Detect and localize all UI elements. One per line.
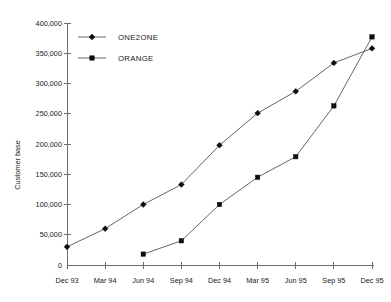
data-point-diamond-marker [140,202,146,208]
x-tick-label: Jun 94 [132,276,154,285]
data-point-diamond-marker [89,34,95,40]
y-tick-label: 0 [58,261,62,270]
legend-item-one2one[interactable]: ONE2ONE [78,33,158,42]
x-tick-label: Sep 95 [322,276,345,285]
x-tick-label: Dec 93 [55,276,78,285]
y-axis-title: Customer base [13,140,22,189]
y-axis-tick-labels: 050,000100,000150,000200,000250,000300,0… [36,19,62,270]
x-tick-label: Jun 95 [285,276,307,285]
data-point-diamond-marker [369,46,375,52]
data-point-square-marker [294,155,298,159]
y-tick-label: 250,000 [36,109,62,118]
x-tick-label: Sep 94 [170,276,193,285]
x-tick-label: Mar 95 [246,276,269,285]
x-tick-label: Dec 95 [360,276,383,285]
data-point-square-marker [141,252,145,256]
series-line [143,37,372,254]
y-tick-label: 400,000 [36,19,62,28]
series-one2one [64,46,375,250]
data-point-diamond-marker [64,244,70,250]
line-chart: 050,000100,000150,000200,000250,000300,0… [0,0,391,302]
y-tick-label: 200,000 [36,140,62,149]
data-point-square-marker [217,202,221,206]
data-point-diamond-marker [102,226,108,232]
x-tick-label: Dec 94 [208,276,231,285]
legend-label: ORANGE [118,54,154,63]
legend-item-orange[interactable]: ORANGE [78,54,154,63]
data-point-square-marker [332,104,336,108]
y-tick-label: 100,000 [36,200,62,209]
y-tick-label: 300,000 [36,79,62,88]
data-point-square-marker [179,239,183,243]
y-tick-label: 350,000 [36,49,62,58]
y-tick-label: 150,000 [36,170,62,179]
data-point-square-marker [255,175,259,179]
data-point-square-marker [370,35,374,39]
x-tick-label: Mar 94 [94,276,117,285]
y-tick-label: 50,000 [40,230,62,239]
x-axis-tick-labels: Dec 93Mar 94Jun 94Sep 94Dec 94Mar 95Jun … [55,276,383,285]
series-orange [141,35,374,257]
legend-label: ONE2ONE [118,33,158,42]
data-point-square-marker [90,56,94,60]
series-layer [64,35,375,257]
chart-legend: ONE2ONEORANGE [78,33,158,63]
chart-container: 050,000100,000150,000200,000250,000300,0… [0,0,391,302]
